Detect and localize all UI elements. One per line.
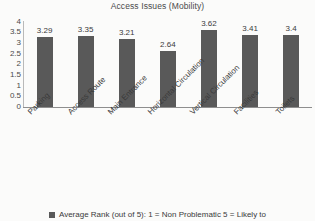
y-tick-label: 0.5 <box>0 92 21 100</box>
y-tick-label: 3.5 <box>0 28 21 36</box>
y-tick-label: 0 <box>0 103 21 111</box>
y-tick-label: 2.5 <box>0 50 21 58</box>
y-tick-label: 1.5 <box>0 71 21 79</box>
chart-legend: Average Rank (out of 5): 1 = Non Problem… <box>0 210 315 220</box>
y-tick-label: 2 <box>0 60 21 68</box>
x-tick-label-access-route: Access Route <box>66 75 107 116</box>
x-tick-label-facilities: Facilities <box>232 88 260 116</box>
x-tick-label-toilets: Toilets <box>274 94 296 116</box>
legend-label: Average Rank (out of 5): 1 = Non Problem… <box>59 210 266 219</box>
x-tick-label-main-entrance: Main Entrance <box>106 74 149 117</box>
y-tick-label: 4 <box>0 18 21 26</box>
y-tick-label: 3 <box>0 39 21 47</box>
x-axis-category-labels: Parking Access Route Main Entrance Horiz… <box>24 0 312 221</box>
legend-swatch-icon <box>49 212 55 218</box>
y-tick-label: 1 <box>0 82 21 90</box>
y-axis-tick-labels: 4 3.5 3 2.5 2 1.5 1 0.5 0 <box>0 0 21 221</box>
x-tick-label-parking: Parking <box>26 91 52 117</box>
chart-container: Access Issues (Mobility) 4 3.5 3 2.5 2 1… <box>0 0 315 221</box>
